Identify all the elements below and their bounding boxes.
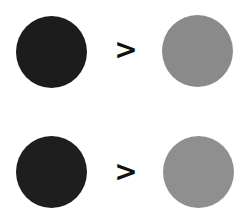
row2-left-dark-circle bbox=[16, 136, 87, 208]
row1-right-gray-circle bbox=[162, 15, 233, 87]
row2-right-gray-circle bbox=[163, 136, 234, 208]
row1-greater-than-symbol: > bbox=[114, 36, 138, 64]
comparison-diagram: > > bbox=[0, 0, 243, 220]
row2-greater-than-symbol: > bbox=[114, 158, 138, 186]
row1-left-dark-circle bbox=[16, 16, 87, 88]
